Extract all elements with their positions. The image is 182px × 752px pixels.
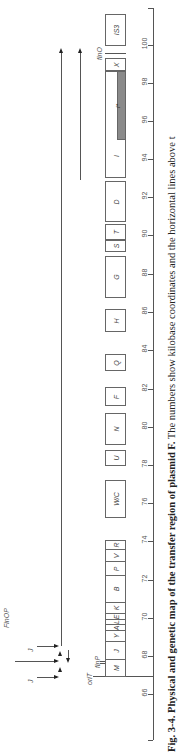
figure-caption: Fig. 3-4. Physical and genetic map of th… bbox=[166, 136, 177, 752]
caption-label: Fig. 3-4. bbox=[166, 716, 177, 752]
promoter-arrow-stem bbox=[68, 650, 69, 658]
tick-78 bbox=[148, 465, 153, 466]
finO-boundary bbox=[105, 53, 126, 54]
tick-label-84: 84 bbox=[141, 341, 148, 357]
tick-label-74: 74 bbox=[141, 532, 148, 548]
finOP-regulation-line bbox=[61, 52, 62, 646]
caption-text: The numbers show kilobase coordinates an… bbox=[166, 136, 177, 439]
J-label-top: J bbox=[27, 649, 34, 653]
gene-traA: A bbox=[105, 624, 126, 631]
tick-76 bbox=[148, 503, 153, 504]
tick-label-94: 94 bbox=[141, 150, 148, 166]
tick-80 bbox=[148, 427, 153, 428]
tick-68 bbox=[148, 656, 153, 657]
caption-title: Physical and genetic map of the transfer… bbox=[166, 442, 177, 713]
tick-72 bbox=[148, 580, 153, 581]
tick-label-70: 70 bbox=[141, 609, 148, 625]
gene-traM: M bbox=[105, 659, 126, 677]
gene-traU: U bbox=[105, 450, 126, 466]
gene-traN: N bbox=[105, 413, 126, 445]
arrow-up-icon bbox=[59, 48, 63, 53]
tick-label-92: 92 bbox=[141, 188, 148, 204]
tick-70 bbox=[148, 618, 153, 619]
gene-traH: H bbox=[105, 309, 126, 332]
J-label-bottom: J bbox=[27, 680, 34, 684]
oriT-label: oriT bbox=[86, 673, 93, 685]
gene-traK: K bbox=[105, 602, 126, 614]
arrow-right-icon bbox=[54, 644, 59, 648]
FinOP-arrow-line bbox=[15, 661, 57, 662]
gene-traR: R bbox=[105, 540, 126, 550]
gene-traX: X bbox=[105, 58, 126, 71]
tick-label-72: 72 bbox=[141, 571, 148, 587]
tick-label-96: 96 bbox=[141, 112, 148, 128]
tick-82 bbox=[148, 389, 153, 390]
axis-end-cap-top bbox=[148, 8, 153, 9]
gene-traI-star-region: I* bbox=[117, 71, 126, 140]
tick-66 bbox=[148, 694, 153, 695]
gene-traV: V bbox=[105, 549, 126, 562]
tick-label-100: 100 bbox=[141, 36, 148, 52]
gene-traQ: Q bbox=[105, 354, 126, 371]
gene-traWC: W/C bbox=[105, 480, 126, 518]
tick-98 bbox=[148, 83, 153, 84]
tick-label-78: 78 bbox=[141, 456, 148, 472]
gene-traE: E bbox=[105, 613, 126, 620]
gene-traG: G bbox=[105, 256, 126, 298]
gene-traY: Y bbox=[105, 630, 126, 642]
tick-label-82: 82 bbox=[141, 380, 148, 396]
tick-90 bbox=[148, 235, 153, 236]
element-IS3: IS3 bbox=[105, 14, 126, 46]
finP-label: finP bbox=[94, 656, 101, 668]
tick-label-90: 90 bbox=[141, 226, 148, 242]
arrow-right-icon bbox=[54, 675, 59, 679]
gene-traD: D bbox=[105, 181, 126, 222]
kb-axis-line bbox=[153, 8, 154, 740]
tick-label-86: 86 bbox=[141, 303, 148, 319]
promoter-arrow-up-icon bbox=[58, 667, 62, 672]
tick-96 bbox=[148, 121, 153, 122]
tick-100 bbox=[148, 45, 153, 46]
genetic-map-figure: 66 68 70 72 74 76 78 80 82 84 86 88 90 9… bbox=[0, 0, 182, 752]
tick-label-68: 68 bbox=[141, 647, 148, 663]
tick-88 bbox=[148, 274, 153, 275]
tick-label-66: 66 bbox=[141, 685, 148, 701]
FinOP-label: FinOP bbox=[3, 608, 10, 628]
gene-traJ: J bbox=[105, 641, 126, 660]
tick-94 bbox=[148, 159, 153, 160]
traJ-regulation-line bbox=[80, 52, 81, 180]
tick-92 bbox=[148, 197, 153, 198]
gene-traT: T bbox=[105, 224, 126, 240]
promoter-arrow-down-icon bbox=[66, 658, 70, 663]
gene-traB: B bbox=[105, 575, 126, 603]
arrow-up-icon bbox=[78, 48, 82, 53]
tick-84 bbox=[148, 350, 153, 351]
gene-traP: P bbox=[105, 561, 126, 576]
tick-label-76: 76 bbox=[141, 494, 148, 510]
arrow-right-icon bbox=[54, 659, 59, 663]
tick-label-98: 98 bbox=[141, 74, 148, 90]
gene-traS: S bbox=[105, 240, 126, 252]
tick-label-88: 88 bbox=[141, 265, 148, 281]
axis-end-cap-bottom bbox=[148, 740, 153, 741]
tick-86 bbox=[148, 312, 153, 313]
promoter-arrow-up-icon bbox=[58, 651, 62, 656]
tick-74 bbox=[148, 541, 153, 542]
tick-label-80: 80 bbox=[141, 418, 148, 434]
gene-traF: F bbox=[105, 387, 126, 406]
finO-label: finO bbox=[96, 47, 103, 60]
